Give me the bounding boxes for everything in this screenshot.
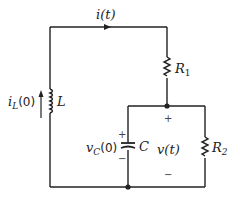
r2-sub: 2 (222, 147, 228, 157)
circuit-wires (0, 0, 240, 202)
loop-current-label: i(t) (96, 8, 116, 21)
resistor-r2-label: R2 (212, 141, 228, 157)
inductor-label: L (57, 95, 66, 108)
circuit-diagram: i(t) R1 R2 L iL(0) C vC(0) v(t) + − + − (0, 0, 240, 202)
resistor-r1-label: R1 (175, 62, 191, 78)
r2-symbol: R (212, 140, 222, 155)
inductor-current-label: iL(0) (8, 95, 35, 111)
output-plus-sign: + (164, 114, 172, 124)
capacitor-label: C (139, 140, 149, 153)
bottom-junction-dot (125, 184, 130, 189)
output-voltage-text: v(t) (157, 142, 180, 157)
output-voltage-label: v(t) (157, 143, 180, 156)
vc-arg: (0) (100, 141, 117, 155)
output-minus-sign: − (164, 170, 172, 180)
il-arg: (0) (18, 95, 35, 109)
top-junction-dot (164, 103, 169, 108)
capacitor-plus-sign: + (118, 130, 126, 140)
inductor-symbol: L (57, 94, 66, 109)
capacitor-minus-sign: − (118, 154, 126, 164)
loop-current-text: i(t) (96, 7, 116, 22)
inductor-current-arrow (39, 90, 44, 97)
capacitor-voltage-label: vC(0) (86, 141, 117, 157)
r1-symbol: R (175, 61, 185, 76)
capacitor-symbol: C (139, 139, 149, 154)
r1-sub: 1 (185, 68, 191, 78)
loop-current-arrow (104, 24, 111, 30)
